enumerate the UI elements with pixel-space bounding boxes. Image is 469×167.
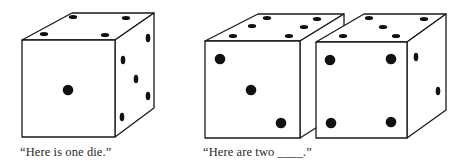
pip [229,34,237,38]
pip [326,118,337,129]
right-die [316,14,446,138]
pip [386,54,397,65]
pip [325,55,336,66]
caption-one-die: “Here is one die.” [20,145,111,160]
pip [121,56,126,65]
pip [285,34,293,38]
pip [420,17,428,21]
pip [313,17,321,21]
pip [40,32,48,36]
dice-illustration [0,0,469,167]
pip [248,24,256,28]
pip [339,34,347,38]
pip [246,85,257,96]
pip [134,75,139,84]
pip [101,33,109,37]
pip [392,34,400,38]
pip [414,53,419,62]
pip [386,117,397,128]
pip [146,92,151,101]
single-die [22,13,154,137]
pip [379,25,387,29]
pip [122,16,130,20]
pip [120,113,125,122]
caption-two-dice: “Here are two ____.” [203,145,312,160]
pip [215,54,226,65]
pip [365,16,373,20]
pip [69,15,77,19]
front-face-pips [63,85,74,96]
pip [300,25,308,29]
pip [276,118,287,129]
pip [63,85,74,96]
pip [146,34,151,43]
pip [436,87,441,96]
pip [263,16,271,20]
